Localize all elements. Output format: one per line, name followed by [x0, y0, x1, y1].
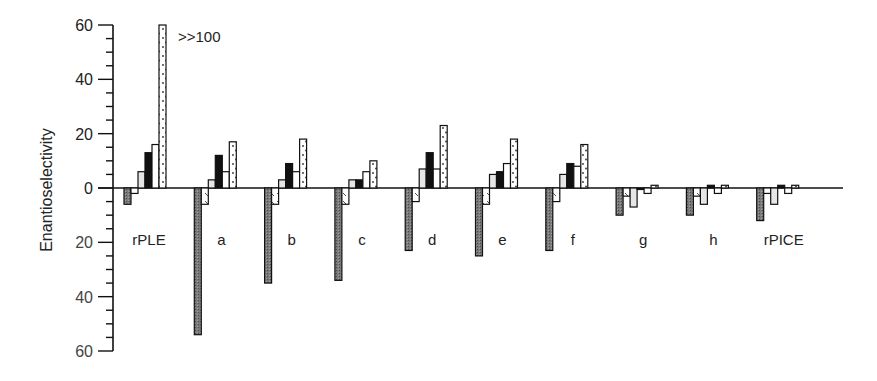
y-tick-label: 60 [75, 343, 93, 360]
bar-rPICE-series-5 [785, 188, 792, 193]
bar-g-series-1 [616, 188, 623, 215]
bar-e-series-1 [476, 188, 483, 256]
bar-g-series-6 [651, 185, 658, 188]
bar-b-series-3 [279, 180, 286, 188]
bar-g-series-5 [644, 188, 651, 193]
bar-rPLE-series-6 [159, 25, 166, 188]
category-label: b [287, 231, 295, 248]
bar-rPICE-series-2 [764, 188, 771, 193]
category-label: rPICE [764, 231, 804, 248]
annotation-label: >>100 [178, 28, 221, 45]
bar-rPLE-series-1 [124, 188, 131, 204]
bar-a-series-4 [215, 155, 222, 188]
category-label: e [498, 231, 506, 248]
y-axis-label: Enantioselectivity [38, 128, 55, 252]
bar-rPICE-series-4 [778, 185, 785, 188]
bar-c-series-4 [356, 180, 363, 188]
bar-h-series-3 [700, 188, 707, 204]
bar-b-series-6 [300, 139, 307, 188]
labels: EnantioselectivityrPLEabcdefghrPICE>>100 [38, 28, 804, 252]
bar-b-series-5 [293, 172, 300, 188]
bar-d-series-6 [440, 126, 447, 188]
category-label: h [709, 231, 717, 248]
y-tick-label: 40 [75, 289, 93, 306]
bar-d-series-4 [426, 153, 433, 188]
bar-d-series-5 [433, 169, 440, 188]
bar-d-series-3 [419, 169, 426, 188]
bar-rPICE-series-6 [792, 185, 799, 188]
bar-e-series-2 [483, 188, 490, 204]
bar-f-series-4 [567, 164, 574, 188]
bar-e-series-5 [504, 164, 511, 188]
bar-d-series-1 [405, 188, 412, 250]
y-tick-label: 20 [75, 126, 93, 143]
bar-rPLE-series-5 [152, 145, 159, 188]
bar-c-series-5 [363, 172, 370, 188]
category-label: g [639, 231, 647, 248]
bar-chart: 6040200204060 EnantioselectivityrPLEabcd… [0, 0, 877, 381]
category-label: rPLE [132, 231, 165, 248]
y-tick-label: 20 [75, 234, 93, 251]
bar-f-series-3 [560, 174, 567, 188]
category-label: d [428, 231, 436, 248]
bar-rPLE-series-4 [145, 153, 152, 188]
bar-c-series-2 [342, 188, 349, 204]
bar-rPICE-series-3 [771, 188, 778, 204]
bar-e-series-4 [497, 172, 504, 188]
bar-f-series-2 [553, 188, 560, 202]
bar-g-series-3 [630, 188, 637, 207]
y-tick-label: 40 [75, 71, 93, 88]
bar-rPLE-series-3 [138, 172, 145, 188]
bar-c-series-3 [349, 180, 356, 188]
bar-rPLE-series-2 [131, 188, 138, 193]
bar-a-series-3 [208, 180, 215, 188]
bar-h-series-2 [693, 188, 700, 196]
bar-h-series-5 [714, 188, 721, 193]
bar-b-series-2 [272, 188, 279, 204]
bar-g-series-4 [637, 188, 644, 190]
bar-h-series-6 [721, 185, 728, 188]
bar-f-series-1 [546, 188, 553, 250]
bar-h-series-1 [686, 188, 693, 215]
bar-g-series-2 [623, 188, 630, 196]
bar-rPICE-series-1 [757, 188, 764, 221]
bar-b-series-1 [265, 188, 272, 283]
y-tick-label: 0 [84, 180, 93, 197]
bar-a-series-1 [194, 188, 201, 335]
bar-c-series-1 [335, 188, 342, 280]
bar-d-series-2 [412, 188, 419, 202]
bar-a-series-2 [201, 188, 208, 204]
category-label: c [358, 231, 366, 248]
bar-a-series-6 [229, 142, 236, 188]
bar-c-series-6 [370, 161, 377, 188]
bar-a-series-5 [222, 172, 229, 188]
bar-b-series-4 [286, 164, 293, 188]
category-label: a [217, 231, 226, 248]
bar-f-series-6 [581, 145, 588, 188]
bar-f-series-5 [574, 166, 581, 188]
bar-e-series-3 [490, 174, 497, 188]
category-label: f [571, 231, 576, 248]
y-tick-label: 60 [75, 17, 93, 34]
bar-e-series-6 [511, 139, 518, 188]
bars [124, 25, 799, 335]
bar-h-series-4 [707, 185, 714, 188]
